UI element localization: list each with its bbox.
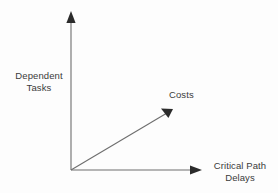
x-axis-arrowhead: [190, 165, 202, 174]
costs-series-label: Costs: [169, 89, 194, 101]
y-axis-arrowhead: [66, 11, 75, 23]
costs-trend-line: [71, 113, 167, 170]
costs-trend-group: [71, 109, 173, 171]
x-axis-label: Critical Path Delays: [206, 160, 274, 184]
y-axis-label-line-2: Tasks: [8, 82, 70, 94]
y-axis-label: Dependent Tasks: [8, 70, 70, 94]
diagram-canvas: Dependent Tasks Critical Path Delays Cos…: [0, 0, 278, 193]
x-axis-label-line-1: Critical Path: [206, 160, 274, 172]
y-axis-label-line-1: Dependent: [8, 70, 70, 82]
costs-trend-arrowhead: [161, 109, 173, 119]
x-axis-label-line-2: Delays: [206, 172, 274, 184]
costs-label-text: Costs: [169, 89, 194, 101]
x-axis-group: [71, 165, 202, 174]
